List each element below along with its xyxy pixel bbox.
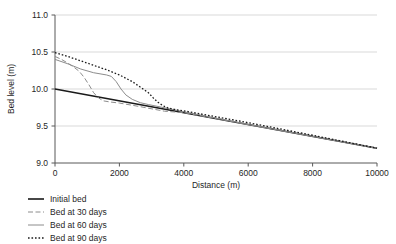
x-tick-label: 0 <box>53 168 58 178</box>
y-axis-title: Bed level (m) <box>6 64 16 114</box>
y-tick-label: 9.5 <box>36 121 48 131</box>
x-tick-label: 8000 <box>303 168 322 178</box>
x-tick-label: 4000 <box>174 168 193 178</box>
x-tick-label: 2000 <box>110 168 129 178</box>
legend-label-2: Bed at 60 days <box>50 220 107 230</box>
legend-label-3: Bed at 90 days <box>50 233 107 243</box>
legend-label-0: Initial bed <box>50 194 87 204</box>
y-tick-label: 11.0 <box>32 10 48 20</box>
x-axis-title: Distance (m) <box>192 180 240 190</box>
y-tick-label: 10.5 <box>31 47 48 57</box>
x-tick-label: 10000 <box>365 168 389 178</box>
bed-level-line-chart: 0200040006000800010000 9.09.510.010.511.… <box>0 0 396 244</box>
y-tick-label: 9.0 <box>36 158 48 168</box>
x-tick-label: 6000 <box>239 168 258 178</box>
chart-container: 0200040006000800010000 9.09.510.010.511.… <box>0 0 396 244</box>
legend-label-1: Bed at 30 days <box>50 207 107 217</box>
y-tick-label: 10.0 <box>31 84 48 94</box>
